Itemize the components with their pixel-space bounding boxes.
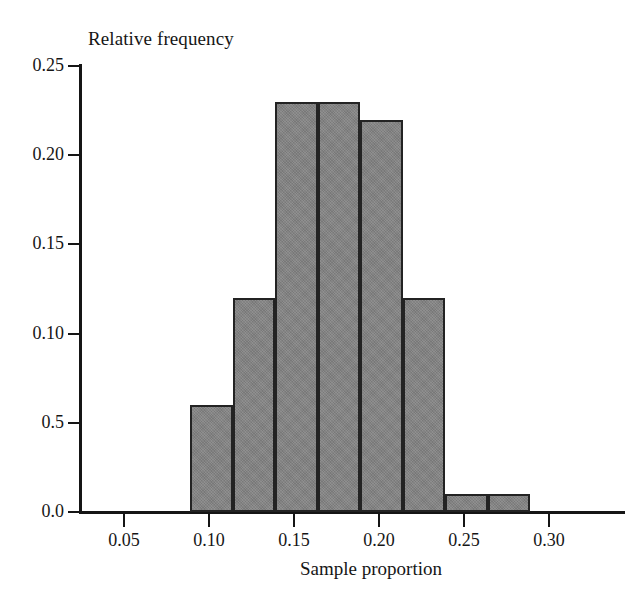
x-axis-title: Sample proportion [300, 558, 442, 580]
histogram-bar [360, 120, 403, 512]
x-axis-title-container: Sample proportion [0, 558, 642, 580]
histogram-bar [275, 102, 318, 512]
histogram-bar [403, 298, 446, 512]
histogram-bar [233, 298, 276, 512]
histogram-bar [190, 405, 233, 512]
histogram-bars [0, 0, 642, 610]
plot-area: 0.00.50.100.150.200.25 0.050.100.150.200… [0, 0, 642, 610]
histogram-bar [445, 494, 488, 512]
histogram-bar [318, 102, 361, 512]
histogram-bar [488, 494, 531, 512]
histogram-figure: Relative frequency 0.00.50.100.150.200.2… [0, 0, 642, 610]
